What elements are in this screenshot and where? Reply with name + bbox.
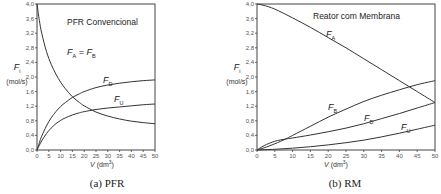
y-tick-label: 2,8 [246,45,255,51]
y-tick-label: 2,4 [26,59,35,65]
series-label-sub: U [407,128,411,134]
y-axis-label-sub: i [239,68,240,74]
x-tick-label: 5 [273,153,277,159]
series-label-fa: FA [326,29,336,41]
x-tick-label: 50 [152,153,159,159]
x-tick-label: 45 [140,153,147,159]
x-axis-label-main: V [324,161,331,168]
series-label-sub: D [370,119,374,125]
x-axis-label: V (dm3) [90,159,114,169]
x-tick-label: 0 [35,153,39,159]
y-tick-label: 0,8 [26,118,35,124]
chart-caption: (a) PFR [90,177,125,190]
chart-title: Reator com Membrana [313,11,400,21]
series-label-fa-fb: FA = FB [67,47,96,59]
series-label-eq: = F [76,47,92,57]
y-tick-label: 3,6 [246,16,255,22]
x-tick-label: 50 [432,153,439,159]
series-label-fd: FD [103,75,113,87]
y-axis-label: Fi [234,62,241,74]
x-tick-label: 15 [69,153,76,159]
series-label-sub: D [109,81,113,87]
y-axis-label: Fi [14,62,21,74]
series-label-sub2: B [92,53,96,59]
series-label-fd: FD [364,113,374,125]
x-tick-label: 15 [307,153,314,159]
x-axis-label: V (dm3) [324,159,348,169]
x-axis-label-close: ) [346,161,348,169]
y-axis-label-sub: i [19,68,20,74]
x-tick-label: 40 [396,153,403,159]
x-tick-label: 5 [47,153,51,159]
y-tick-label: 4,0 [246,1,255,7]
y-axis-unit: (mol/s) [226,78,247,86]
chart-panel-rm: 0,00,40,81,21,62,02,42,83,23,64,00510152… [226,1,439,190]
x-tick-label: 25 [93,153,100,159]
series-label-sub: A [332,35,336,41]
y-tick-label: 1,2 [246,103,255,109]
figure: 0,00,40,81,21,62,02,42,83,23,64,00510152… [0,0,441,194]
x-tick-label: 20 [81,153,88,159]
chart-title: PFR Convencional [67,17,138,27]
chart-caption: (b) RM [329,177,362,190]
y-tick-label: 0,0 [26,147,35,153]
y-tick-label: 0,4 [26,132,35,138]
x-axis-label-unit: (dm [331,161,343,169]
series-line-fd [37,80,155,150]
y-tick-label: 3,2 [26,30,35,36]
x-tick-label: 40 [128,153,135,159]
y-tick-label: 3,2 [246,30,255,36]
x-axis-label-close: ) [112,161,114,169]
x-tick-label: 30 [360,153,367,159]
y-axis-unit: (mol/s) [6,78,27,86]
y-tick-label: 1,6 [26,89,35,95]
series-label-sub: U [120,100,124,106]
series-label-fb: FB [328,102,338,114]
x-tick-label: 45 [414,153,421,159]
series-line-fu [37,104,155,150]
chart-panel-pfr: 0,00,40,81,21,62,02,42,83,23,64,00510152… [6,1,159,190]
y-tick-label: 3,6 [26,16,35,22]
x-tick-label: 0 [255,153,259,159]
x-axis-label-main: V [90,161,97,168]
series-label-sub: B [334,108,338,114]
series-label-fu: FU [401,122,411,134]
x-axis-label-unit: (dm [97,161,109,169]
x-tick-label: 35 [116,153,123,159]
y-tick-label: 0,8 [246,118,255,124]
x-tick-label: 10 [289,153,296,159]
x-tick-label: 35 [378,153,385,159]
y-tick-label: 4,0 [26,1,35,7]
x-tick-label: 20 [325,153,332,159]
series-label-fu: FU [114,94,124,106]
y-tick-label: 1,6 [246,89,255,95]
y-tick-label: 2,8 [26,45,35,51]
y-tick-label: 0,0 [246,147,255,153]
x-tick-label: 10 [57,153,64,159]
y-tick-label: 1,2 [26,103,35,109]
y-tick-label: 2,4 [246,59,255,65]
y-tick-label: 0,4 [246,132,255,138]
